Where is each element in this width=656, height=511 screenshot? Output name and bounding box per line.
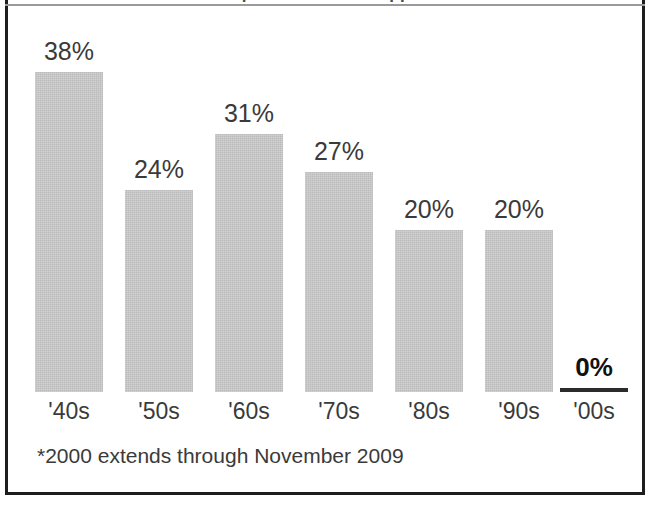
- category-label: '00s: [560, 400, 628, 423]
- bar-value-label: 27%: [287, 139, 391, 164]
- bar: [395, 230, 463, 392]
- category-label: '50s: [125, 400, 193, 423]
- category-label: '60s: [215, 400, 283, 423]
- bar: [560, 388, 628, 392]
- plot-area: 38%'40s24%'50s31%'60s27%'70s20%'80s20%'9…: [0, 0, 656, 511]
- category-label: '70s: [305, 400, 373, 423]
- bar-value-label: 0%: [542, 354, 646, 380]
- bar-value-label: 31%: [197, 101, 301, 126]
- category-label: '90s: [485, 400, 553, 423]
- bar-value-label: 24%: [107, 157, 211, 182]
- bar-value-label: 20%: [467, 197, 571, 222]
- chart-footnote: *2000 extends through November 2009: [37, 443, 404, 469]
- bar: [35, 72, 103, 392]
- bar: [215, 134, 283, 392]
- bar: [125, 190, 193, 392]
- bar-value-label: 38%: [17, 39, 121, 64]
- category-label: '80s: [395, 400, 463, 423]
- bar: [305, 172, 373, 392]
- bar-chart-figure: ...top of chart title cropped... 38%'40s…: [0, 0, 656, 511]
- category-label: '40s: [35, 400, 103, 423]
- bar-value-label: 20%: [377, 197, 481, 222]
